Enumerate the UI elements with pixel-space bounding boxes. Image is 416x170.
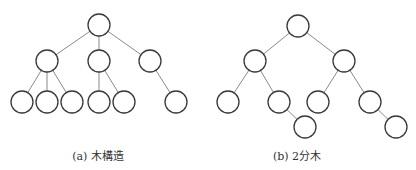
tree-node <box>36 50 58 72</box>
tree-node <box>88 91 110 113</box>
caption-tree-structure: (a) 木構造 <box>72 147 124 163</box>
tree-node <box>217 91 239 113</box>
tree-node <box>333 50 355 72</box>
tree-structure-figure <box>11 14 187 113</box>
tree-node <box>385 116 407 138</box>
root-node <box>287 15 309 37</box>
binary-tree-figure <box>217 15 407 138</box>
tree-node <box>11 91 33 113</box>
tree-node <box>359 91 381 113</box>
tree-diagrams <box>0 0 416 170</box>
tree-node <box>244 50 266 72</box>
tree-node <box>113 91 135 113</box>
tree-node <box>294 116 316 138</box>
root-node <box>88 14 110 36</box>
tree-node <box>307 91 329 113</box>
caption-binary-tree: (b) 2分木 <box>273 147 321 163</box>
tree-node <box>268 91 290 113</box>
tree-node <box>165 91 187 113</box>
tree-node <box>139 50 161 72</box>
tree-node <box>61 91 83 113</box>
tree-node <box>88 50 110 72</box>
tree-node <box>36 91 58 113</box>
